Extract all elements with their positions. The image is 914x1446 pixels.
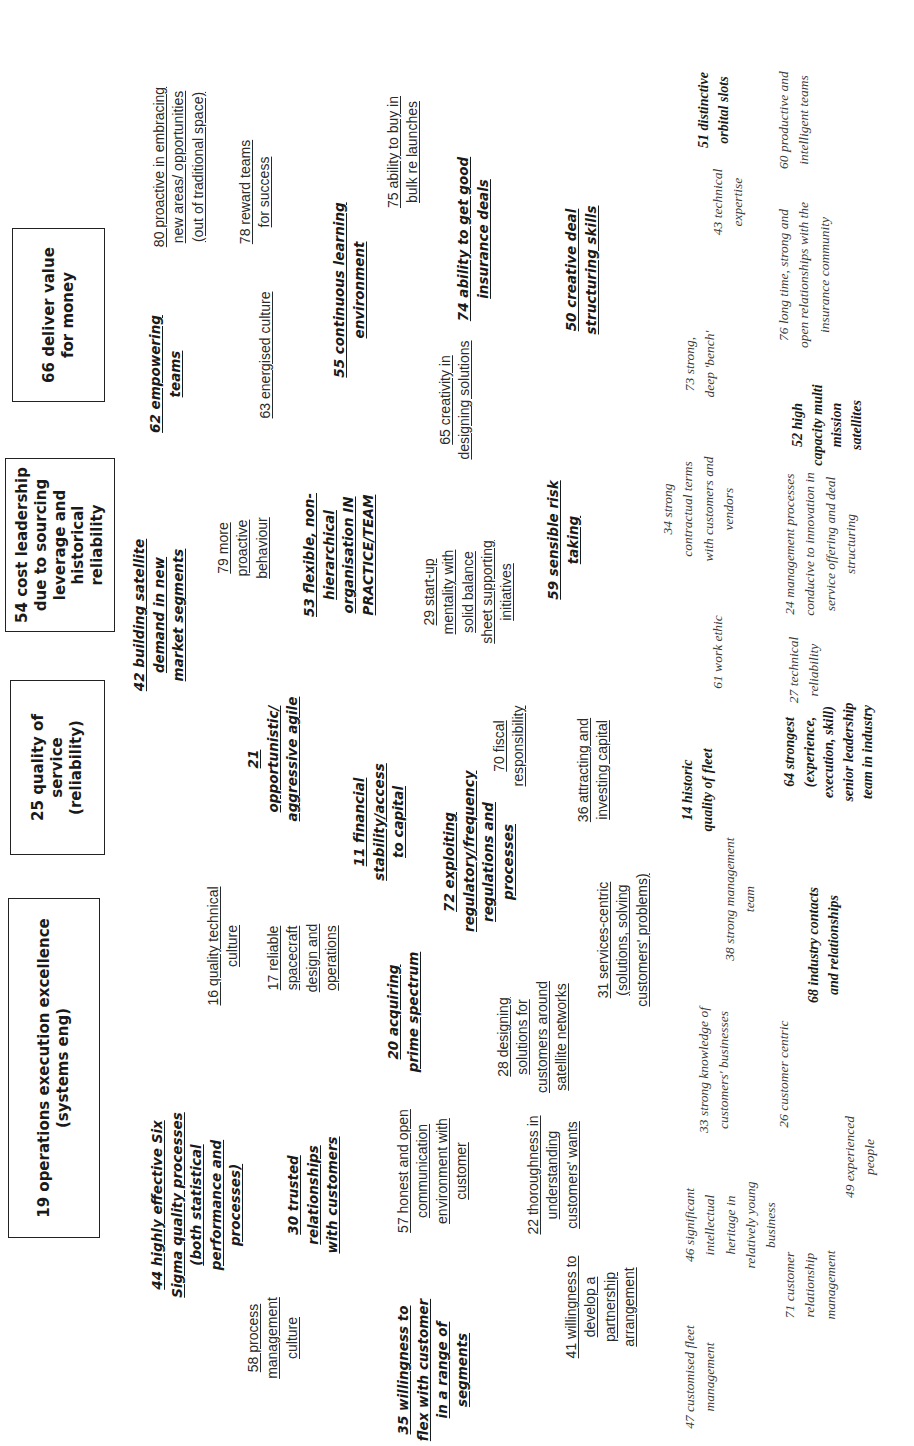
competence-79: 79 more proactive behaviour bbox=[214, 502, 272, 594]
competence-31: 31 services-centric (solutions, solving … bbox=[594, 858, 652, 1022]
asset-76: 76 long time, strong and open relationsh… bbox=[774, 198, 835, 352]
strategic-competence-35: 35 willingness to flex with customer in … bbox=[394, 1294, 472, 1446]
competence-78: 78 reward teams for success bbox=[236, 136, 275, 248]
asset-43: 43 technical expertise bbox=[708, 162, 749, 242]
goal-box-54: 54 cost leadership due to sourcing lever… bbox=[5, 458, 115, 632]
competence-36: 36 attracting and investing capital bbox=[574, 708, 613, 832]
strategic-competence-42: 42 building satellite demand in new mark… bbox=[130, 536, 189, 694]
asset-61: 61 work ethic bbox=[708, 612, 728, 692]
strategic-competence-72: 72 exploiting regulatory/frequency regul… bbox=[440, 792, 518, 932]
strategic-competence-21: 21 opportunistic/ aggressive agile bbox=[244, 696, 303, 822]
competence-63: 63 energised culture bbox=[256, 288, 275, 422]
distinctive-asset-52: 52 high capacity multi mission satellite… bbox=[788, 378, 866, 472]
asset-73: 73 strong, deep 'bench' bbox=[680, 326, 721, 402]
goal-label-25: 25 quality of service (reliability) bbox=[29, 689, 85, 846]
asset-33: 33 strong knowledge of customers' busine… bbox=[694, 1000, 735, 1140]
asset-47: 47 customised fleet management bbox=[680, 1312, 721, 1442]
goal-label-54: 54 cost leadership due to sourcing lever… bbox=[13, 467, 107, 623]
asset-49: 49 experienced people bbox=[840, 1112, 881, 1202]
strategic-competence-53: 53 flexible, non-hierarchical organisati… bbox=[300, 468, 378, 642]
distinctive-asset-64: 64 strongest (experience, execution, ski… bbox=[780, 688, 878, 816]
distinctive-asset-14: 14 historic quality of fleet bbox=[678, 738, 717, 842]
strategic-competence-20: 20 acquiring prime spectrum bbox=[384, 944, 423, 1080]
strategic-competence-74: 74 ability to get good insurance deals bbox=[454, 154, 493, 324]
asset-24: 24 management processes conducive to inn… bbox=[780, 466, 861, 622]
strategic-competence-62: 62 empowering teams bbox=[146, 296, 185, 452]
asset-46: 46 significant intellectual heritage in … bbox=[680, 1176, 781, 1274]
asset-71: 71 customer relationship management bbox=[780, 1240, 841, 1330]
strategic-competence-30: 30 trusted relationships with customers bbox=[284, 1130, 343, 1260]
competence-65: 65 creativity in designing solutions bbox=[436, 336, 475, 464]
competence-16: 16 quality technical culture bbox=[204, 886, 243, 1006]
distinctive-asset-51: 51 distinctive orbital slots bbox=[694, 58, 733, 162]
competence-22: 22 thoroughness in understanding custome… bbox=[524, 1098, 582, 1252]
competence-41: 41 willingness to develop a partnership … bbox=[562, 1252, 639, 1362]
goal-label-66: 66 deliver value for money bbox=[40, 237, 78, 393]
goal-box-19: 19 operations execution excellence (syst… bbox=[8, 898, 100, 1238]
competence-75: 75 ability to buy in bulk re launches bbox=[384, 86, 423, 218]
asset-60: 60 productive and intelligent teams bbox=[774, 58, 815, 182]
strategic-competence-55: 55 continuous learning environment bbox=[330, 196, 369, 384]
goal-box-25: 25 quality of service (reliability) bbox=[10, 680, 105, 855]
asset-26: 26 customer centric bbox=[774, 1008, 794, 1140]
goal-box-66: 66 deliver value for money bbox=[12, 228, 105, 402]
distinctive-asset-68: 68 industry contacts and relationships bbox=[804, 878, 843, 1012]
competence-29: 29 start-up mentality with solid balance… bbox=[420, 540, 517, 644]
asset-38: 38 strong management team bbox=[720, 836, 761, 962]
competence-17: 17 reliable spacecraft design and operat… bbox=[264, 908, 341, 1008]
goal-label-19: 19 operations execution excellence (syst… bbox=[35, 907, 73, 1229]
competence-80: 80 proactive in embracing new areas/ opp… bbox=[150, 86, 208, 248]
competence-58: 58 process management culture bbox=[244, 1286, 302, 1390]
competence-57: 57 honest and open communication environ… bbox=[394, 1100, 471, 1242]
competence-70: 70 fiscal responsibility bbox=[490, 694, 529, 798]
strategic-competence-11: 11 financial stability/access to capital bbox=[350, 762, 409, 882]
strategic-competence-59: 59 sensible risk taking bbox=[544, 476, 583, 604]
competence-28: 28 designing solutions for customers aro… bbox=[494, 972, 571, 1102]
strategic-competence-50: 50 creative deal structuring skills bbox=[562, 196, 601, 344]
rotated-diagram-page: 19 operations execution excellence (syst… bbox=[0, 0, 914, 1446]
strategic-competence-44: 44 highly effective Six Sigma quality pr… bbox=[148, 1110, 246, 1300]
asset-34: 34 strong contractual terms with custome… bbox=[658, 456, 739, 562]
